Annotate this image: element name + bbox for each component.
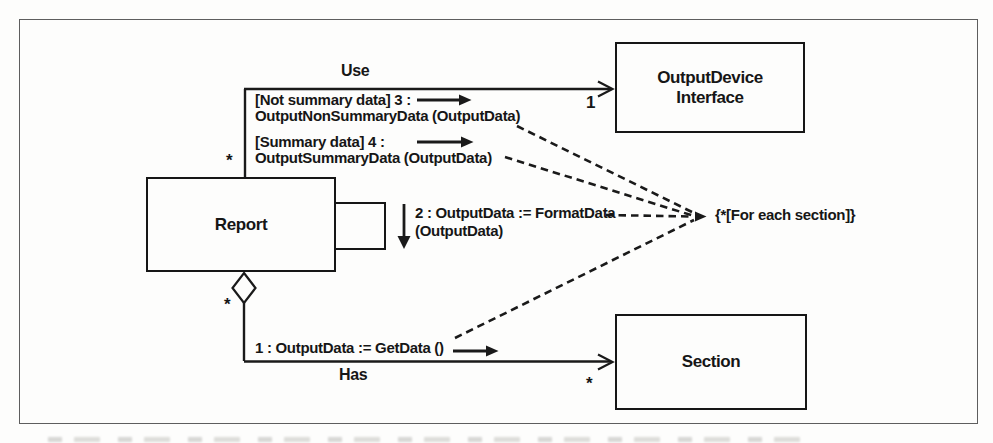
- message-1-call-label: 1 : OutputData := GetData (): [255, 340, 444, 356]
- message-2-call-label-line2: (OutputData): [415, 223, 503, 239]
- use-target-multiplicity: 1: [586, 95, 595, 111]
- report-self-link-box: [334, 202, 386, 250]
- message-2-call-label-line1: 2 : OutputData := FormatData: [415, 205, 615, 221]
- has-association-label: Has: [339, 367, 367, 383]
- class-box-output-device-interface: OutputDevice Interface: [615, 42, 805, 133]
- collaboration-diagram-figure: Report OutputDevice Interface Section Us…: [0, 0, 993, 443]
- dashed-line-from-message-2: [606, 215, 691, 217]
- message-4-call-label: OutputSummaryData (OutputData): [255, 150, 492, 166]
- class-name-report: Report: [215, 215, 267, 235]
- has-target-multiplicity: *: [586, 376, 593, 392]
- message-1-arrow-icon: [453, 346, 499, 357]
- use-association-label: Use: [341, 63, 369, 79]
- class-name-output-device-line2: Interface: [676, 88, 743, 108]
- aggregation-diamond-icon: [233, 273, 256, 303]
- message-3-guard-label: [Not summary data] 3 :: [255, 92, 411, 108]
- class-box-report: Report: [146, 177, 336, 272]
- iteration-constraint-label: {*[For each section]}: [715, 207, 855, 223]
- class-box-section: Section: [615, 314, 807, 410]
- message-2-self-arrow-icon: [398, 204, 411, 249]
- message-4-arrow-icon: [417, 137, 474, 148]
- has-source-multiplicity: *: [224, 297, 231, 313]
- message-3-call-label: OutputNonSummaryData (OutputData): [255, 108, 520, 124]
- message-4-guard-label: [Summary data] 4 :: [255, 134, 385, 150]
- use-source-multiplicity: *: [226, 153, 233, 169]
- class-name-section: Section: [682, 352, 741, 372]
- message-3-arrow-icon: [417, 95, 472, 106]
- class-name-output-device-line1: OutputDevice: [657, 68, 763, 88]
- constraint-arrowhead-icon: [695, 212, 707, 222]
